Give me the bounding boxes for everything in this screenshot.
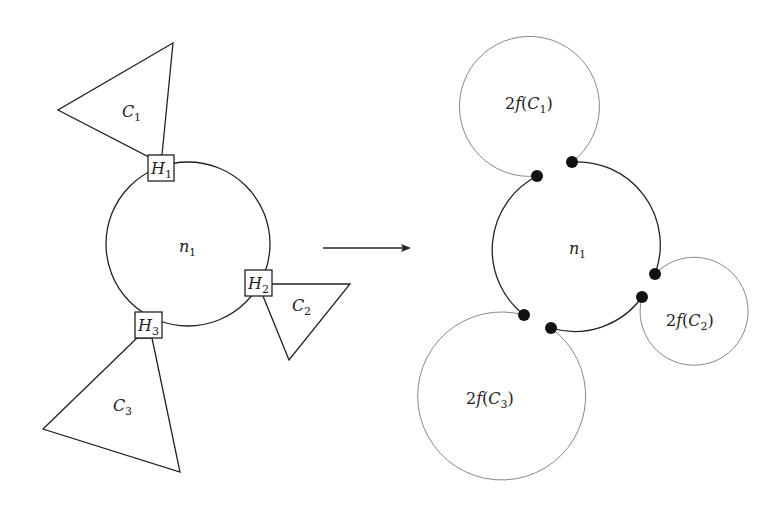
svg-text:C: C [122, 102, 134, 121]
svg-text:H: H [247, 274, 263, 293]
component-triangle-c1 [58, 43, 173, 157]
label-2f-c3: 2f(C3) [466, 389, 514, 411]
svg-text:1: 1 [165, 168, 172, 181]
svg-text:2: 2 [262, 283, 269, 296]
svg-text:3: 3 [125, 405, 132, 418]
svg-text:n: n [179, 237, 189, 256]
svg-text:C: C [292, 296, 304, 315]
diagram-canvas: H 1 H 2 H 3 n 1 C 1 C 2 C 3 [0, 0, 781, 505]
svg-text:3: 3 [152, 325, 159, 338]
node-arc-left [492, 176, 537, 315]
component-triangle-c2 [263, 284, 350, 360]
hub-box-h1: H 1 [148, 155, 174, 181]
junction-dot [545, 322, 557, 334]
label-c1: C 1 [122, 102, 141, 124]
svg-text:H: H [137, 316, 153, 335]
junction-dot [649, 268, 661, 280]
svg-text:2f(C1): 2f(C1) [505, 94, 553, 116]
junction-dot [518, 309, 530, 321]
component-circle-c3 [418, 312, 586, 480]
svg-text:2f(C3): 2f(C3) [466, 389, 514, 411]
label-c2: C 2 [292, 296, 311, 318]
label-c3: C 3 [113, 396, 132, 418]
hub-box-h3: H 3 [135, 312, 162, 338]
junction-dot [636, 291, 648, 303]
svg-text:1: 1 [579, 248, 586, 261]
label-n1-left: n 1 [179, 237, 196, 259]
label-2f-c1: 2f(C1) [505, 94, 553, 116]
svg-text:2: 2 [304, 305, 311, 318]
svg-text:2f(C2): 2f(C2) [666, 311, 714, 333]
label-2f-c2: 2f(C2) [666, 311, 714, 333]
svg-text:1: 1 [189, 246, 196, 259]
hub-box-h2: H 2 [245, 270, 272, 296]
node-arc-bottom [551, 297, 642, 331]
label-n1-right: n 1 [569, 239, 586, 261]
component-triangle-c3 [43, 338, 180, 472]
svg-text:1: 1 [134, 111, 141, 124]
svg-text:C: C [113, 396, 125, 415]
junction-dot [566, 156, 578, 168]
junction-dot [531, 170, 543, 182]
svg-text:n: n [569, 239, 579, 258]
svg-text:H: H [150, 159, 166, 178]
transform-arrow-icon [323, 244, 411, 252]
